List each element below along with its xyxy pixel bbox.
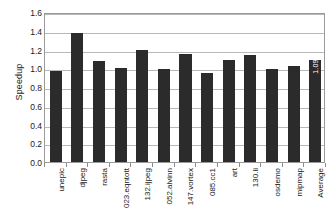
- bar[interactable]: [158, 69, 170, 162]
- bar-slot: [218, 14, 240, 162]
- bar[interactable]: [136, 50, 148, 162]
- x-tick: [325, 163, 326, 167]
- x-label-slot: art: [217, 168, 239, 224]
- x-tick: [152, 163, 153, 167]
- y-tick-label: 1.2: [20, 46, 42, 55]
- y-axis-tick-labels: 0.00.20.40.60.81.01.21.41.6: [20, 0, 42, 176]
- bar[interactable]: [71, 33, 83, 162]
- bar-slot: [131, 14, 153, 162]
- plot-area: 1.09: [44, 13, 325, 163]
- x-tick-label: 023.eqntott: [123, 168, 131, 208]
- y-tick-label: 0.0: [20, 159, 42, 168]
- x-tick: [66, 163, 67, 167]
- x-tick: [217, 163, 218, 167]
- x-tick-label: Average: [317, 168, 325, 198]
- y-tick-label: 1.6: [20, 9, 42, 18]
- bar[interactable]: 1.09: [309, 60, 321, 162]
- bar-value-label: 1.09: [312, 59, 319, 73]
- x-label-slot: 147.vortex: [174, 168, 196, 224]
- x-tick: [109, 163, 110, 167]
- x-tick: [87, 163, 88, 167]
- bar-slot: 1.09: [304, 14, 326, 162]
- bar[interactable]: [288, 66, 300, 162]
- x-tick: [174, 163, 175, 167]
- bar[interactable]: [266, 69, 278, 162]
- x-tick-label: art: [231, 168, 239, 177]
- x-label-slot: 023.eqntott: [109, 168, 131, 224]
- bar[interactable]: [223, 60, 235, 162]
- y-tick-label: 0.8: [20, 84, 42, 93]
- x-tick-label: 085.cc1: [209, 168, 217, 196]
- bar[interactable]: [179, 54, 191, 162]
- x-tick: [239, 163, 240, 167]
- x-tick: [130, 163, 131, 167]
- x-tick-label: djpeg: [79, 168, 87, 188]
- x-label-slot: 052.alvinn: [152, 168, 174, 224]
- x-label-slot: unepic: [44, 168, 66, 224]
- x-axis-ticks: [44, 163, 325, 167]
- bar-slot: [88, 14, 110, 162]
- bar-slot: [45, 14, 67, 162]
- bar-slot: [240, 14, 262, 162]
- speedup-bar-chart: Speedup 0.00.20.40.60.81.01.21.41.6 1.09…: [0, 0, 336, 224]
- bar[interactable]: [50, 71, 62, 162]
- bar[interactable]: [115, 68, 127, 162]
- x-label-slot: 130.li: [239, 168, 261, 224]
- x-tick-label: 052.alvinn: [166, 168, 174, 204]
- bar-slot: [175, 14, 197, 162]
- x-label-slot: osdemo: [260, 168, 282, 224]
- bar-slot: [196, 14, 218, 162]
- x-tick-label: 130.li: [252, 168, 260, 187]
- x-label-slot: 085.cc1: [195, 168, 217, 224]
- y-tick-label: 0.2: [20, 140, 42, 149]
- x-tick-label: unepic: [58, 168, 66, 192]
- x-axis-tick-labels: unepicdjpegrasta023.eqntott132.ijpeg052.…: [44, 168, 325, 224]
- x-tick-label: 147.vortex: [187, 168, 195, 205]
- bar-slot: [110, 14, 132, 162]
- x-label-slot: 132.ijpeg: [130, 168, 152, 224]
- bar-slot: [153, 14, 175, 162]
- x-tick-label: osdemo: [274, 168, 282, 196]
- x-tick-label: rasta: [101, 168, 109, 186]
- bar-slot: [67, 14, 89, 162]
- y-tick-label: 1.4: [20, 28, 42, 37]
- x-tick: [195, 163, 196, 167]
- bar[interactable]: [201, 73, 213, 162]
- bar-slot: [261, 14, 283, 162]
- x-tick: [282, 163, 283, 167]
- x-label-slot: djpeg: [66, 168, 88, 224]
- y-tick-label: 0.4: [20, 121, 42, 130]
- x-tick: [303, 163, 304, 167]
- x-label-slot: mipmap: [282, 168, 304, 224]
- bar[interactable]: [93, 61, 105, 162]
- bar[interactable]: [244, 55, 256, 162]
- x-tick: [44, 163, 45, 167]
- x-tick: [260, 163, 261, 167]
- x-label-slot: Average: [303, 168, 325, 224]
- x-label-slot: rasta: [87, 168, 109, 224]
- bar-slot: [283, 14, 305, 162]
- y-tick-label: 0.6: [20, 103, 42, 112]
- y-tick-label: 1.0: [20, 65, 42, 74]
- bars-layer: 1.09: [45, 14, 324, 162]
- x-tick-label: 132.ijpeg: [144, 168, 152, 200]
- x-tick-label: mipmap: [296, 168, 304, 196]
